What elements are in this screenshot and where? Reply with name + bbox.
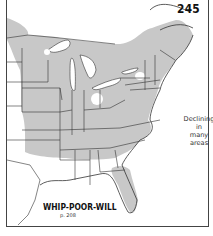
range-gap-ny: [135, 72, 145, 80]
range-note: Declining in many areas: [179, 115, 213, 147]
note-line-4: areas: [179, 139, 213, 147]
note-line-1: Declining: [179, 115, 213, 123]
range-gap-ohio: [91, 93, 103, 105]
map-number: 245: [177, 1, 200, 16]
species-name: WHIP-POOR-WILL: [43, 201, 117, 212]
page-reference: p. 208: [60, 212, 76, 218]
note-line-2: in: [179, 123, 213, 131]
range-gap-minn: [44, 49, 50, 55]
note-line-3: many: [179, 131, 213, 139]
